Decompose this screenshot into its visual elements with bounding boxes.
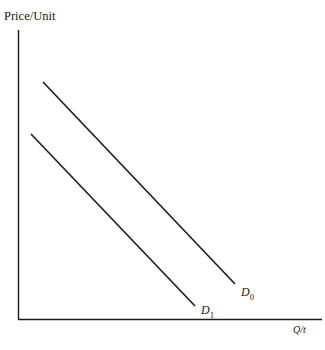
demand-shift-diagram: Price/Unit D0 D1 Q/t [0, 0, 325, 350]
demand-curve-d0 [43, 82, 235, 284]
curve-label-d0: D0 [240, 285, 254, 302]
x-axis-label: Q/t [293, 324, 306, 335]
demand-curve-d1 [31, 134, 195, 306]
y-axis-label: Price/Unit [4, 9, 56, 23]
curve-label-d1: D1 [200, 303, 214, 320]
